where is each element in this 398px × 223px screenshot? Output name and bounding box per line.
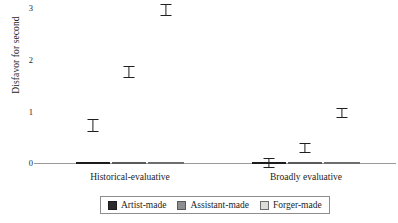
error-cap-bottom-artist-made-broad [264,167,275,168]
bar-slot-forger-made-broad [324,113,360,164]
legend-swatch-icon-forger-made [260,201,269,210]
y-tick-2: 2 [29,56,33,65]
y-tick-0: 0 [29,159,33,168]
error-cap-top-forger-made-historical [161,4,172,5]
plot-area: 3 2 1 0 [40,4,392,164]
legend-label-artist-made: Artist-made [121,200,166,210]
bar-forger-made-historical[interactable] [148,162,184,164]
bar-slot-forger-made [148,10,184,164]
bar-assistant-made-historical[interactable] [112,162,146,164]
bar-slot-artist-made-broad [252,163,286,164]
error-cap-bottom-forger-made-historical [161,15,172,16]
y-tick-1: 1 [29,108,33,117]
x-category-label-historical: Historical-evaluative [90,172,170,182]
bar-assistant-made-broad[interactable] [288,162,322,164]
y-tick-3: 3 [29,4,33,13]
error-cap-top-assistant-made-historical [124,66,135,67]
error-bar-artist-made-historical [92,120,93,132]
error-cap-top-assistant-made-broad [300,143,311,144]
legend-item-artist-made[interactable]: Artist-made [108,200,166,210]
bar-artist-made-historical[interactable] [76,162,110,164]
y-axis-label: Disfavor for second [11,0,21,115]
error-cap-bottom-assistant-made-historical [124,77,135,78]
error-cap-bottom-artist-made-historical [88,131,99,132]
bar-slot-assistant-made-broad [288,148,322,164]
error-cap-top-artist-made-broad [264,158,275,159]
bar-chart: Disfavor for second 3 2 1 0 [0,0,398,223]
legend-swatch-icon-assistant-made [177,201,186,210]
error-cap-top-artist-made-historical [88,119,99,120]
error-cap-bottom-assistant-made-broad [300,152,311,153]
legend-item-assistant-made[interactable]: Assistant-made [177,200,249,210]
x-category-label-broadly: Broadly evaluative [270,172,342,182]
chart-legend: Artist-made Assistant-made Forger-made [100,196,330,214]
legend-label-forger-made: Forger-made [273,200,322,210]
bar-group-broadly-evaluative [252,4,360,164]
legend-swatch-icon-artist-made [108,201,117,210]
bar-slot-assistant-made [112,72,146,164]
bar-group-historical-evaluative [76,4,184,164]
error-cap-bottom-forger-made-broad [337,117,348,118]
bar-forger-made-broad[interactable] [324,162,360,164]
bar-slot-artist-made [76,126,110,164]
legend-item-forger-made[interactable]: Forger-made [260,200,322,210]
error-cap-top-forger-made-broad [337,108,348,109]
legend-label-assistant-made: Assistant-made [190,200,249,210]
